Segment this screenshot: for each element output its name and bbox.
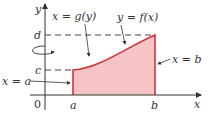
origin-label: 0: [34, 98, 41, 111]
annotation-f-curve: y = f(x): [116, 11, 158, 24]
y-axis-label: y: [34, 3, 42, 16]
x-axis-label: x: [194, 98, 201, 111]
tick-label-b: b: [151, 99, 158, 112]
pointer-line-b: [158, 59, 170, 64]
annotation-line-b: x = b: [172, 53, 201, 66]
diagram-canvas: y x 0 d c a b x = g(y) y = f(x) x = b x …: [0, 0, 212, 116]
rotation-arrow-icon: [32, 46, 55, 54]
tick-label-c: c: [35, 64, 41, 77]
pointer-f-curve: [121, 25, 125, 44]
annotation-g-curve: x = g(y): [52, 10, 96, 23]
pointer-line-a: [30, 81, 70, 83]
tick-label-a: a: [70, 99, 77, 112]
tick-label-d: d: [34, 29, 41, 42]
shaded-region: [73, 35, 155, 95]
pointer-g-curve: [85, 24, 89, 56]
annotation-line-a: x = a: [2, 75, 31, 88]
